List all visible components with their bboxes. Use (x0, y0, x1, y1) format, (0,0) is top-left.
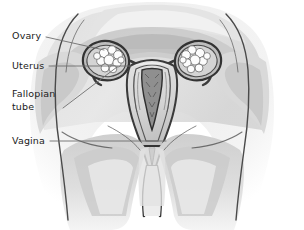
label-vagina: Vagina (12, 135, 45, 148)
label-fallopian-tube: Fallopiantube (12, 88, 55, 113)
label-fallopian-tube-line2: tube (12, 101, 34, 112)
label-uterus: Uterus (12, 60, 44, 73)
label-fallopian-tube-line1: Fallopian (12, 88, 55, 99)
label-layer: Ovary Uterus Fallopiantube Vagina (0, 0, 304, 230)
anatomy-figure: Ovary Uterus Fallopiantube Vagina (0, 0, 304, 230)
label-ovary: Ovary (12, 30, 41, 43)
